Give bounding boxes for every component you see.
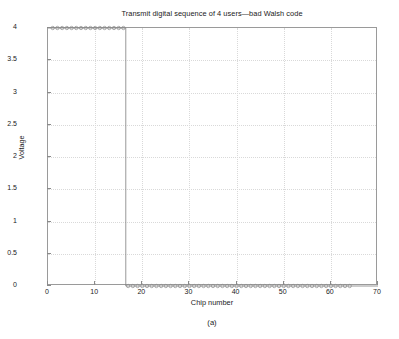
y-tick-mark xyxy=(47,27,51,28)
y-tick-mark xyxy=(47,59,51,60)
y-tick-mark xyxy=(47,92,51,93)
x-tick-mark xyxy=(330,281,331,285)
figure-caption: (a) xyxy=(47,318,377,327)
data-line xyxy=(48,28,378,286)
y-tick-label: 0 xyxy=(0,281,17,288)
y-tick-label: 2.5 xyxy=(0,120,17,127)
y-tick-label: 3.5 xyxy=(0,55,17,62)
x-tick-label: 20 xyxy=(126,288,156,295)
y-tick-mark xyxy=(47,285,51,286)
y-tick-label: 3 xyxy=(0,88,17,95)
x-tick-label: 70 xyxy=(362,288,392,295)
y-tick-label: 2 xyxy=(0,152,17,159)
y-tick-mark xyxy=(47,124,51,125)
y-tick-label: 4 xyxy=(0,23,17,30)
x-tick-label: 30 xyxy=(173,288,203,295)
x-tick-label: 60 xyxy=(315,288,345,295)
y-tick-mark xyxy=(47,188,51,189)
x-tick-mark xyxy=(377,281,378,285)
y-tick-mark xyxy=(47,253,51,254)
y-tick-label: 1.5 xyxy=(0,184,17,191)
x-tick-mark xyxy=(188,281,189,285)
y-tick-label: 1 xyxy=(0,217,17,224)
y-tick-label: 0.5 xyxy=(0,249,17,256)
x-tick-label: 10 xyxy=(79,288,109,295)
x-tick-label: 50 xyxy=(268,288,298,295)
data-series-plot xyxy=(48,28,378,286)
x-tick-mark xyxy=(283,281,284,285)
plot-area xyxy=(47,27,377,285)
x-tick-mark xyxy=(47,281,48,285)
x-tick-mark xyxy=(236,281,237,285)
x-tick-mark xyxy=(94,281,95,285)
x-axis-label: Chip number xyxy=(47,298,377,307)
x-tick-mark xyxy=(141,281,142,285)
x-tick-label: 0 xyxy=(32,288,62,295)
y-tick-mark xyxy=(47,221,51,222)
y-tick-mark xyxy=(47,156,51,157)
x-tick-label: 40 xyxy=(221,288,251,295)
figure-canvas: Transmit digital sequence of 4 users—bad… xyxy=(0,0,399,339)
y-axis-label: Voltage xyxy=(17,118,26,178)
chart-title: Transmit digital sequence of 4 users—bad… xyxy=(47,9,377,18)
